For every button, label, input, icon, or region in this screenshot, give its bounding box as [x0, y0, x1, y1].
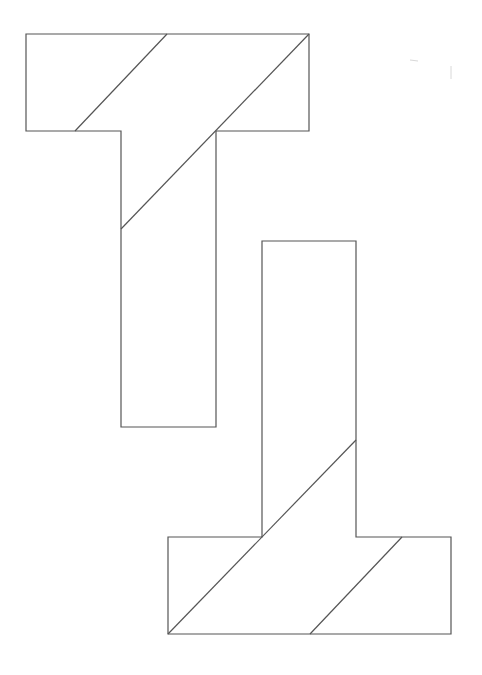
diagram-canvas [0, 0, 482, 675]
artifact-mark [410, 60, 418, 61]
scan-artifacts [410, 60, 451, 79]
